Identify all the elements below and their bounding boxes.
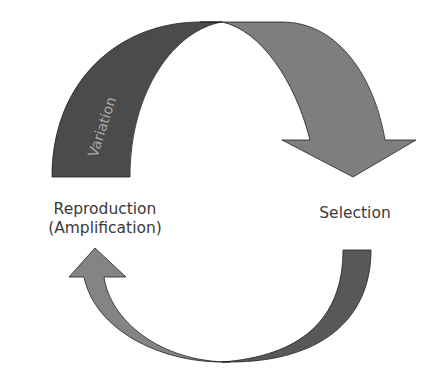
selection-node: Selection (300, 204, 410, 223)
reproduction-label: Reproduction (30, 200, 180, 219)
evolution-cycle-diagram: Variation Reproduction (Amplification) S… (0, 0, 439, 381)
diagram-svg: Variation (0, 0, 439, 381)
amplification-arrow (69, 248, 371, 362)
variation-arrow-head (200, 22, 416, 177)
reproduction-node: Reproduction (Amplification) (30, 200, 180, 238)
amplification-arrow-tail (222, 250, 371, 362)
variation-arrow-tail (52, 22, 222, 177)
amplification-arrow-head (69, 248, 230, 362)
amplification-label: (Amplification) (30, 219, 180, 238)
selection-label: Selection (300, 204, 410, 223)
